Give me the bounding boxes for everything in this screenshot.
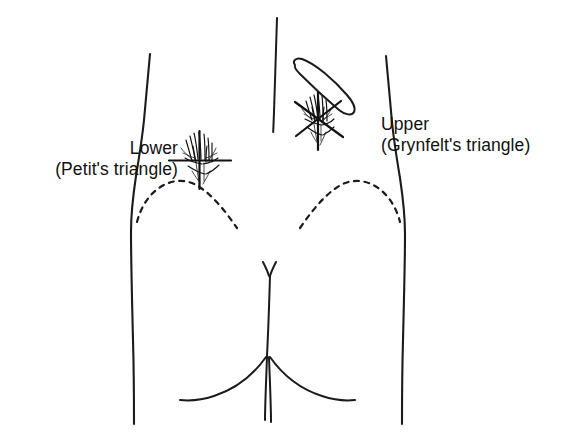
label-upper-line2: (Grynfelt's triangle) bbox=[381, 135, 561, 156]
label-upper-line1: Upper bbox=[381, 114, 561, 135]
right-gluteal-fold bbox=[270, 357, 355, 400]
right-torso-outline bbox=[386, 56, 405, 424]
label-lower-petits-triangle: Lower (Petit's triangle) bbox=[18, 138, 178, 180]
spine-line bbox=[273, 18, 277, 132]
left-gluteal-fold bbox=[180, 357, 266, 400]
upper-triangle-marker bbox=[295, 92, 343, 150]
label-lower-line1: Lower bbox=[18, 138, 178, 159]
right-iliac-crest bbox=[300, 181, 400, 228]
gluteal-cleft-lower-right bbox=[269, 357, 271, 422]
label-lower-line2: (Petit's triangle) bbox=[18, 159, 178, 180]
left-iliac-crest bbox=[137, 181, 237, 228]
gluteal-cleft bbox=[267, 276, 270, 356]
gluteal-cleft-fork-left bbox=[263, 262, 269, 276]
twelfth-rib bbox=[294, 58, 355, 114]
gluteal-cleft-lower-left bbox=[265, 357, 267, 420]
anatomical-figure-canvas bbox=[0, 0, 561, 443]
gluteal-cleft-fork-right bbox=[270, 262, 276, 276]
label-upper-grynfelts-triangle: Upper (Grynfelt's triangle) bbox=[381, 114, 561, 156]
left-torso-outline bbox=[131, 54, 150, 424]
